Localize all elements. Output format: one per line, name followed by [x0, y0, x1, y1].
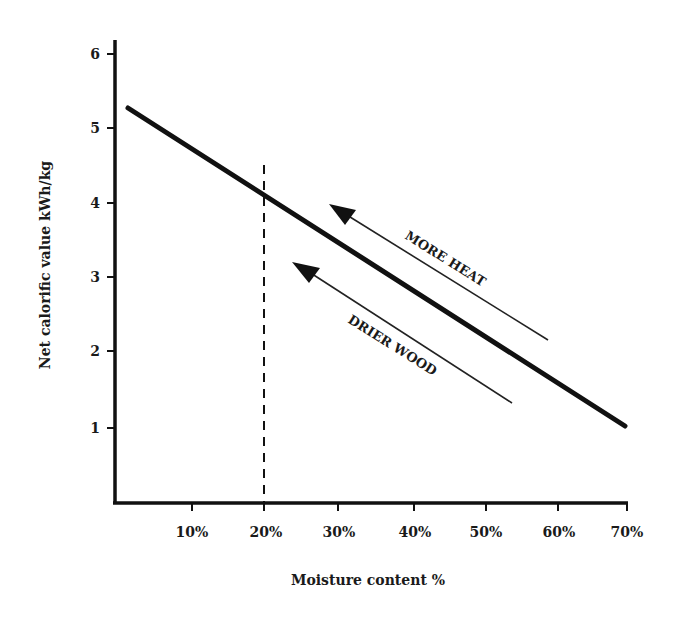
- svg-text:40%: 40%: [399, 524, 432, 540]
- svg-text:70%: 70%: [611, 524, 644, 540]
- svg-text:5: 5: [90, 120, 100, 136]
- drier-wood-label: DRIER WOOD: [345, 312, 439, 379]
- svg-text:50%: 50%: [470, 524, 503, 540]
- svg-text:30%: 30%: [323, 524, 356, 540]
- svg-text:4: 4: [90, 195, 100, 211]
- x-axis-title: Moisture content %: [291, 572, 445, 588]
- y-axis-title: Net calorific value kWh/kg: [37, 161, 53, 369]
- y-tick-labels: 6 5 4 3 2 1: [90, 46, 100, 436]
- svg-text:10%: 10%: [176, 524, 209, 540]
- arrowhead-icon: [329, 204, 356, 225]
- more-heat-label: MORE HEAT: [402, 228, 488, 290]
- svg-text:60%: 60%: [543, 524, 576, 540]
- x-tick-labels: 10% 20% 30% 40% 50% 60% 70%: [176, 524, 644, 540]
- chart: 6 5 4 3 2 1 10% 20% 30% 40% 50% 60% 70% …: [0, 0, 681, 620]
- svg-text:6: 6: [90, 46, 100, 62]
- data-line: [128, 108, 625, 426]
- arrowhead-icon: [292, 262, 320, 283]
- svg-text:1: 1: [90, 420, 100, 436]
- svg-text:20%: 20%: [250, 524, 283, 540]
- svg-text:3: 3: [90, 269, 100, 285]
- svg-text:2: 2: [90, 343, 100, 359]
